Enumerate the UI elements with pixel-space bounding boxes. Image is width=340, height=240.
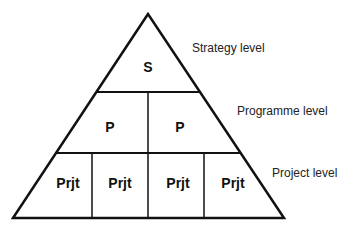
project-level-label: Project level [272, 166, 337, 180]
programme-cell-2: P [175, 119, 184, 135]
strategy-cell: S [143, 59, 152, 75]
programme-level-label: Programme level [237, 104, 328, 118]
project-cell-3: Prjt [166, 175, 189, 191]
programme-cell-1: P [105, 119, 114, 135]
project-cell-1: Prjt [56, 175, 79, 191]
project-cell-4: Prjt [221, 175, 244, 191]
project-cell-2: Prjt [108, 175, 131, 191]
strategy-level-label: Strategy level [192, 41, 265, 55]
